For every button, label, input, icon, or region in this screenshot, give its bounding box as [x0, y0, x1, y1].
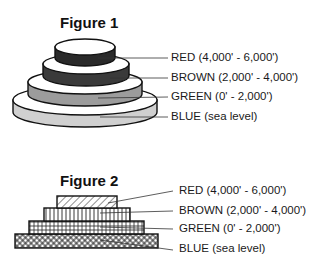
figure2-label-green: GREEN (0' - 2,000') [179, 222, 281, 234]
figure1-title: Figure 1 [60, 14, 118, 31]
figure1-disk-red [55, 39, 115, 66]
figure1-label-green: GREEN (0' - 2,000') [171, 90, 273, 102]
figure1-label-red: RED (4,000' - 6,000') [171, 51, 278, 63]
figure1-disks [13, 39, 168, 127]
figure1-label-blue: BLUE (sea level) [171, 110, 257, 122]
figure2-bar-blue [15, 234, 158, 248]
figure2-label-brown: BROWN (2,000' - 4,000') [179, 204, 306, 216]
figure2-title: Figure 2 [60, 172, 118, 189]
figure2-bar-brown [44, 208, 130, 221]
figure2-label-blue: BLUE (sea level) [179, 242, 265, 254]
figure2-label-red: RED (4,000' - 6,000') [179, 184, 286, 196]
figure2-bars [15, 191, 173, 250]
diagram-canvas [0, 0, 326, 257]
figure1-label-brown: BROWN (2,000' - 4,000') [171, 71, 298, 83]
figure2-leader-red [108, 191, 173, 203]
figure2-bar-red [57, 196, 117, 208]
